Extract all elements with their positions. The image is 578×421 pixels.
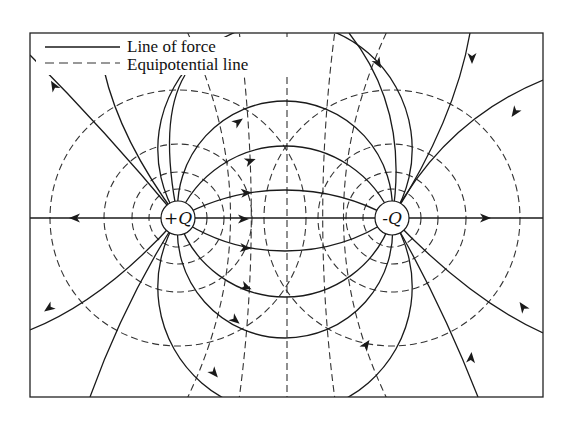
- direction-arrows: [42, 53, 530, 380]
- equipotential-lines: [50, 23, 520, 407]
- charge-positive-label: +Q: [164, 208, 192, 228]
- charge-negative: -Q: [375, 201, 409, 235]
- legend: Line of force Equipotential line: [36, 37, 304, 75]
- dipole-field-diagram: Line of force Equipotential line +Q -Q: [0, 0, 578, 421]
- charge-negative-label: -Q: [382, 208, 402, 228]
- legend-label-line-of-force: Line of force: [127, 37, 216, 56]
- charge-positive: +Q: [161, 201, 195, 235]
- legend-label-equipotential: Equipotential line: [127, 55, 248, 74]
